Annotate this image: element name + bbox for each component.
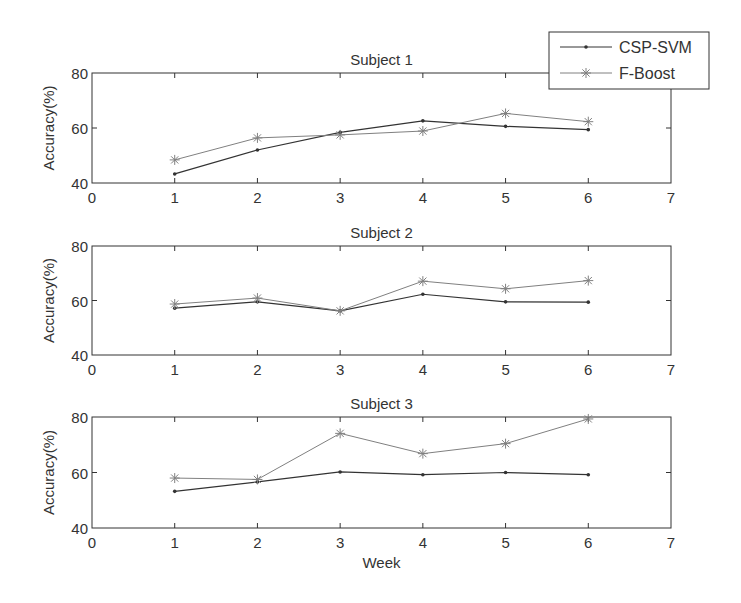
data-point-csp-svm — [173, 490, 177, 494]
x-tick-label: 7 — [667, 534, 675, 551]
x-tick-label: 3 — [336, 361, 344, 378]
series-line-f-boost — [175, 281, 589, 311]
data-point-csp-svm — [586, 300, 590, 304]
data-point-f-boost — [418, 449, 428, 459]
y-tick-label: 40 — [71, 520, 88, 537]
data-point-f-boost — [583, 276, 593, 286]
legend-marker-f-boost — [581, 68, 591, 78]
data-point-f-boost — [501, 108, 511, 118]
x-tick-label: 0 — [88, 189, 96, 206]
x-tick-label: 0 — [88, 534, 96, 551]
data-point-f-boost — [170, 299, 180, 309]
data-point-f-boost — [335, 130, 345, 140]
y-axis-label: Accuracy(%) — [40, 85, 57, 170]
data-point-csp-svm — [173, 172, 177, 176]
y-tick-label: 80 — [71, 65, 88, 82]
y-axis-label: Accuracy(%) — [40, 430, 57, 515]
subplot-2: 01234567406080Subject 2Accuracy(%) — [40, 224, 675, 378]
asterisk-icon — [581, 68, 591, 78]
series-line-f-boost — [175, 113, 589, 159]
x-tick-label: 7 — [667, 189, 675, 206]
x-tick-label: 4 — [419, 361, 427, 378]
data-point-f-boost — [170, 473, 180, 483]
data-point-csp-svm — [421, 292, 425, 296]
data-point-f-boost — [418, 126, 428, 136]
x-tick-label: 1 — [171, 534, 179, 551]
data-point-f-boost — [583, 117, 593, 127]
data-point-f-boost — [418, 276, 428, 286]
data-point-f-boost — [335, 428, 345, 438]
data-point-csp-svm — [256, 148, 260, 152]
y-tick-label: 40 — [71, 347, 88, 364]
y-tick-label: 60 — [71, 465, 88, 482]
x-tick-label: 7 — [667, 361, 675, 378]
data-point-csp-svm — [338, 470, 342, 474]
legend-marker-csp-svm — [584, 45, 588, 49]
x-tick-label: 5 — [501, 361, 509, 378]
series-line-csp-svm — [175, 294, 589, 311]
legend-label-csp-svm: CSP-SVM — [619, 39, 692, 56]
x-tick-label: 5 — [501, 189, 509, 206]
x-tick-label: 2 — [253, 189, 261, 206]
x-tick-label: 3 — [336, 534, 344, 551]
x-tick-label: 3 — [336, 189, 344, 206]
y-tick-label: 80 — [71, 238, 88, 255]
data-point-csp-svm — [504, 125, 508, 129]
x-tick-label: 6 — [584, 534, 592, 551]
x-tick-label: 4 — [419, 189, 427, 206]
data-point-f-boost — [501, 284, 511, 294]
y-tick-label: 60 — [71, 293, 88, 310]
x-tick-label: 5 — [501, 534, 509, 551]
legend-label-f-boost: F-Boost — [619, 65, 676, 82]
series-line-csp-svm — [175, 121, 589, 174]
data-point-f-boost — [252, 474, 262, 484]
x-tick-label: 6 — [584, 189, 592, 206]
y-tick-label: 60 — [71, 120, 88, 137]
data-point-csp-svm — [504, 300, 508, 304]
x-tick-label: 6 — [584, 361, 592, 378]
x-tick-label: 2 — [253, 534, 261, 551]
data-point-f-boost — [501, 439, 511, 449]
subplot-title: Subject 3 — [350, 395, 413, 412]
data-point-f-boost — [252, 133, 262, 143]
x-tick-label: 4 — [419, 534, 427, 551]
x-axis-label: Week — [362, 554, 401, 571]
x-tick-label: 1 — [171, 189, 179, 206]
y-tick-label: 80 — [71, 409, 88, 426]
data-point-f-boost — [252, 293, 262, 303]
subplot-title: Subject 1 — [350, 51, 413, 68]
series-line-f-boost — [175, 419, 589, 479]
data-point-csp-svm — [586, 473, 590, 477]
subplot-title: Subject 2 — [350, 224, 413, 241]
y-tick-label: 40 — [71, 175, 88, 192]
data-point-f-boost — [583, 414, 593, 424]
y-axis-label: Accuracy(%) — [40, 258, 57, 343]
x-tick-label: 2 — [253, 361, 261, 378]
subplot-3: 01234567406080Subject 3Accuracy(%)Week — [40, 395, 675, 571]
x-tick-label: 1 — [171, 361, 179, 378]
data-point-csp-svm — [421, 473, 425, 477]
data-point-f-boost — [335, 306, 345, 316]
chart-figure: 01234567406080Subject 1Accuracy(%)012345… — [0, 0, 741, 603]
data-point-csp-svm — [504, 471, 508, 475]
data-point-f-boost — [170, 155, 180, 165]
series-line-csp-svm — [175, 472, 589, 491]
axes-box — [92, 246, 671, 355]
legend: CSP-SVM F-Boost — [549, 32, 709, 89]
data-point-csp-svm — [421, 119, 425, 123]
axes-box — [92, 417, 671, 528]
data-point-csp-svm — [586, 128, 590, 132]
x-tick-label: 0 — [88, 361, 96, 378]
